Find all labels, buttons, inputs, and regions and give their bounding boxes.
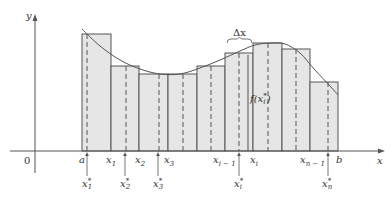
partition-label: a xyxy=(79,155,85,165)
partition-label: b xyxy=(336,155,342,165)
riemann-rectangle xyxy=(310,82,338,151)
riemann-rectangle xyxy=(111,66,139,151)
origin-label: 0 xyxy=(24,156,30,166)
riemann-rectangles xyxy=(82,34,338,151)
riemann-sum-diagram: y x 0 Δx ax1x2x3xi − 1xixn − 1b x*1x*2x*… xyxy=(0,0,391,201)
sample-point-arrows xyxy=(85,152,330,176)
y-axis-arrowhead xyxy=(33,14,38,21)
x-axis-label: x xyxy=(377,156,383,166)
sample-point-label: x*2 xyxy=(120,178,130,191)
sample-point-label: x*3 xyxy=(153,178,163,191)
partition-label: x1 xyxy=(106,155,116,168)
partition-label: x3 xyxy=(164,155,174,168)
sample-arrowhead xyxy=(237,152,241,156)
partition-label: x2 xyxy=(135,155,145,168)
y-axis-label: y xyxy=(26,11,32,21)
partition-label: xn − 1 xyxy=(300,155,325,168)
partition-label: xi xyxy=(250,155,258,168)
diagram-canvas xyxy=(0,0,391,201)
sample-point-label: x*1 xyxy=(82,178,92,191)
sample-arrowhead xyxy=(123,152,127,156)
delta-x-label: Δx xyxy=(233,28,246,38)
sample-arrowhead xyxy=(326,152,330,156)
sample-arrowhead xyxy=(156,152,160,156)
x-axis-arrowhead xyxy=(378,149,385,154)
sample-point-label: x*n xyxy=(322,178,332,191)
partition-label: xi − 1 xyxy=(213,155,236,168)
f-of-sample-label: f(x*i) xyxy=(250,93,271,106)
sample-arrowhead xyxy=(85,152,89,156)
riemann-rectangle xyxy=(139,74,168,151)
sample-point-label: x*i xyxy=(234,178,243,191)
